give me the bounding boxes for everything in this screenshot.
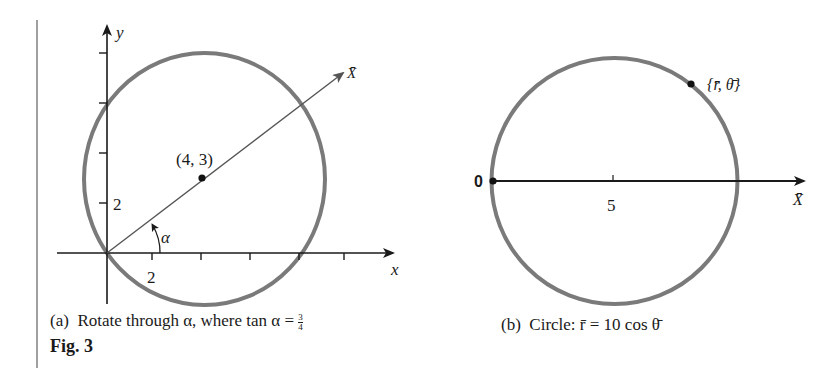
fraction-denominator: 4 bbox=[298, 323, 303, 332]
panel-a: y x X̄ (4, 3) α 2 2 bbox=[57, 23, 399, 305]
panel-a-caption-text: Rotate through α, where tan α = bbox=[77, 311, 294, 330]
panel-a-caption-prefix: (a) bbox=[50, 311, 69, 330]
figure-label: Fig. 3 bbox=[50, 336, 93, 357]
tick-label-5: 5 bbox=[607, 196, 616, 215]
panel-b: 0 5 X̄ {r̄, θ̄} bbox=[474, 58, 804, 304]
origin-point bbox=[489, 177, 496, 184]
center-point-label: (4, 3) bbox=[176, 150, 213, 169]
x-ticks bbox=[152, 253, 344, 260]
panel-a-caption-fraction: 3 4 bbox=[298, 313, 303, 332]
panel-b-caption: (b) Circle: r̄ = 10 cos θ̄ bbox=[501, 315, 660, 335]
point-label: {r̄, θ̄} bbox=[707, 76, 741, 93]
center-point bbox=[198, 174, 205, 181]
x-tick-label-2: 2 bbox=[147, 268, 156, 287]
rotated-axis-label: X̄ bbox=[346, 65, 357, 81]
x-axis-label: x bbox=[390, 260, 399, 279]
rotated-x-axis bbox=[107, 73, 343, 253]
angle-alpha-arc bbox=[153, 225, 161, 253]
y-tick-label-2: 2 bbox=[113, 195, 122, 214]
panel-b-caption-prefix: (b) bbox=[501, 315, 521, 334]
curve-point bbox=[687, 80, 694, 87]
y-axis-label: y bbox=[114, 23, 124, 42]
y-ticks bbox=[99, 53, 107, 203]
panel-b-caption-text: Circle: r̄ = 10 cos θ̄ bbox=[529, 315, 660, 334]
angle-label: α bbox=[161, 228, 171, 247]
panel-a-caption: (a) Rotate through α, where tan α = 3 4 bbox=[50, 311, 303, 332]
origin-label: 0 bbox=[474, 173, 483, 190]
polar-axis-label: X̄ bbox=[792, 191, 804, 208]
